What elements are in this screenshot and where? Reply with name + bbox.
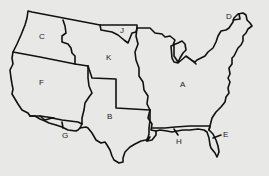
region-label-b: B bbox=[107, 113, 112, 121]
region-label-h: H bbox=[176, 138, 182, 146]
us-territorial-map: A B C D E F G H J K bbox=[0, 0, 269, 176]
region-label-e: E bbox=[223, 131, 228, 139]
region-label-k: K bbox=[106, 54, 111, 62]
border-j bbox=[100, 25, 137, 43]
region-label-j: J bbox=[120, 27, 124, 35]
border-k-b bbox=[88, 66, 150, 110]
g-pointer bbox=[62, 122, 63, 128]
border-f-b bbox=[80, 66, 92, 128]
region-label-d: D bbox=[226, 13, 232, 21]
region-label-f: F bbox=[39, 79, 44, 87]
border-h bbox=[152, 126, 210, 128]
region-label-g: G bbox=[62, 132, 68, 140]
region-label-a: A bbox=[180, 81, 185, 89]
border-e bbox=[209, 126, 210, 130]
region-label-c: C bbox=[39, 33, 45, 41]
map-boundaries bbox=[0, 0, 269, 176]
border-mississippi bbox=[135, 28, 156, 131]
border-c-k bbox=[62, 20, 75, 64]
border-c-f bbox=[13, 52, 88, 66]
